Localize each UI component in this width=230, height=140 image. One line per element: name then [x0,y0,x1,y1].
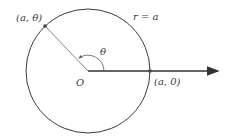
point-theta-label: (a, θ) [16,12,42,23]
point-a-zero [148,69,152,73]
polar-circle-diagram: (a, θ) r = a θ O (a, 0) [0,0,230,140]
angle-arc [79,55,104,71]
point-a-theta [43,24,47,28]
point-zero-label: (a, 0) [154,76,181,87]
angle-label: θ [100,46,106,57]
radius-line [45,26,88,71]
origin-label: O [76,77,84,88]
circle-label: r = a [133,11,159,22]
